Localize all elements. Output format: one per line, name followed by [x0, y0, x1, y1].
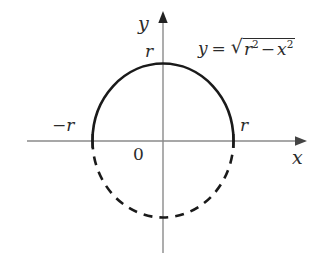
radical-sign-icon: √ — [231, 37, 243, 56]
origin-label: 0 — [133, 146, 144, 163]
radicand-operator: − — [261, 39, 275, 59]
equation-lhs: y — [198, 38, 208, 58]
equation-equals-sign: = — [212, 38, 226, 58]
x-intercept-negative-r-label: −r — [52, 117, 74, 134]
y-axis-label: y — [138, 14, 149, 33]
x-axis-arrowhead — [295, 136, 307, 145]
radicand: r2−x2 — [243, 38, 295, 59]
x-intercept-positive-r-label: r — [240, 117, 248, 134]
square-root-expression: √ r2−x2 — [230, 38, 296, 59]
radicand-second-term: x — [277, 39, 287, 59]
y-intercept-r-label: r — [145, 43, 153, 60]
y-axis-arrowhead — [158, 11, 167, 23]
semicircle-figure: y x r −r r 0 y = √ r2−x2 — [0, 0, 327, 261]
radicand-second-exponent: 2 — [287, 38, 294, 50]
radicand-first-term: r — [244, 39, 252, 59]
radicand-first-exponent: 2 — [252, 38, 259, 50]
equation-annotation: y = √ r2−x2 — [198, 38, 295, 59]
x-axis-label: x — [292, 148, 303, 167]
